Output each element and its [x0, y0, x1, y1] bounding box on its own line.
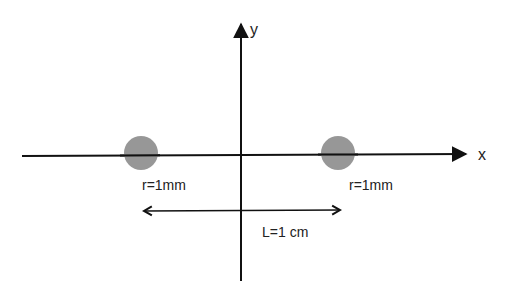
x-axis — [22, 154, 466, 156]
diagram-canvas: x y r=1mm r=1mm L=1 cm — [0, 0, 506, 295]
y-axis-label: y — [250, 21, 258, 38]
x-axis-label: x — [478, 146, 486, 163]
separation-label: L=1 cm — [262, 224, 308, 240]
right-particle — [321, 136, 355, 170]
left-particle-label: r=1mm — [142, 177, 186, 193]
left-particle — [124, 136, 158, 170]
separation-arrow — [144, 210, 340, 211]
right-particle-label: r=1mm — [349, 177, 393, 193]
diagram-svg: x y r=1mm r=1mm L=1 cm — [0, 0, 506, 295]
